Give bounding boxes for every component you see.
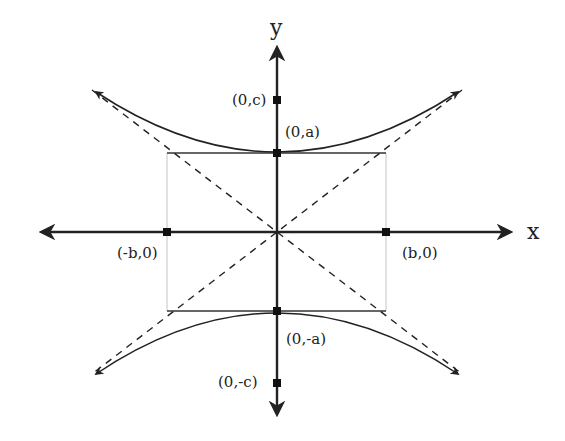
co-vertex-left-label: (-b,0) <box>117 244 158 262</box>
vertex-bottom-marker <box>273 307 281 315</box>
focus-top-marker <box>273 96 281 104</box>
hyperbola-diagram: x y (0,c) (0,a) (0,-a) (0,-c) (-b,0) (b,… <box>0 0 565 441</box>
x-axis-label: x <box>527 219 540 244</box>
focus-top-label: (0,c) <box>232 91 266 109</box>
focus-bottom-marker <box>273 379 281 387</box>
y-axis-label: y <box>269 15 283 40</box>
vertex-top-label: (0,a) <box>285 123 320 141</box>
focus-bottom-label: (0,-c) <box>218 373 258 391</box>
co-vertex-left-marker <box>163 228 171 236</box>
co-vertex-right-label: (b,0) <box>402 244 438 262</box>
vertex-top-marker <box>273 149 281 157</box>
vertex-bottom-label: (0,-a) <box>286 330 326 348</box>
co-vertex-right-marker <box>382 228 390 236</box>
